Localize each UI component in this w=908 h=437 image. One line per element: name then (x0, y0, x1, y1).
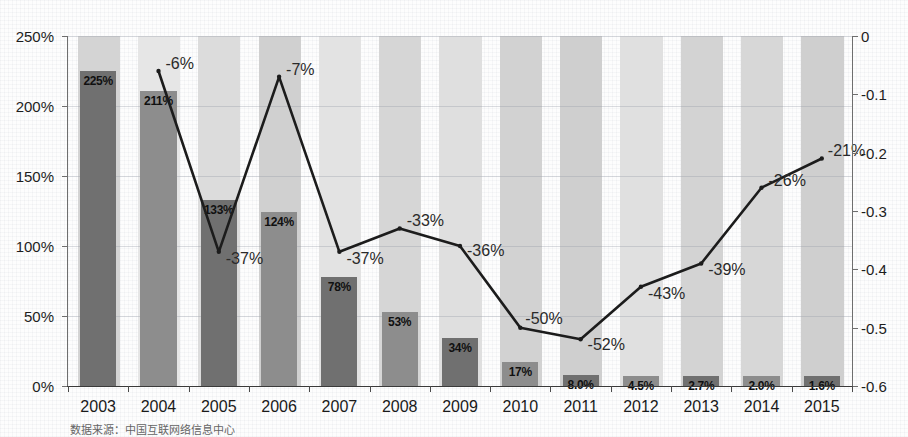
x-axis-tick-label: 2012 (623, 398, 659, 416)
line-data-point[interactable] (639, 285, 643, 289)
x-axis-tick-label: 2008 (382, 398, 418, 416)
y-axis-left-tick (62, 106, 67, 107)
y-axis-left-tick (62, 36, 67, 37)
y-axis-right: 0-0.1-0.2-0.3-0.4-0.5-0.6 (855, 0, 908, 437)
line-series-layer (68, 36, 852, 386)
x-axis-tick-label: 2009 (442, 398, 478, 416)
y-axis-right-tick (852, 36, 858, 37)
source-note: 数据来源：中国互联网络信息中心 (70, 421, 235, 437)
line-data-point[interactable] (759, 186, 763, 190)
y-left-tick-label: 100% (16, 239, 54, 254)
trend-line (159, 71, 822, 339)
line-value-label: -43% (648, 285, 685, 303)
x-axis-tick-label: 2011 (563, 398, 597, 416)
x-axis-tick (309, 386, 310, 392)
line-value-label: -6% (165, 55, 193, 73)
y-axis-right-tick (852, 269, 858, 270)
combo-bar-line-chart: 0%50%100%150%200%250% 0-0.1-0.2-0.3-0.4-… (0, 0, 908, 437)
line-value-label: -52% (588, 336, 625, 354)
line-value-label: -7% (286, 61, 314, 79)
line-value-label: -37% (226, 250, 263, 268)
line-data-point[interactable] (458, 244, 462, 248)
y-right-tick-label: -0.3 (861, 204, 887, 219)
line-data-point[interactable] (820, 156, 824, 160)
line-marker-group (156, 69, 824, 342)
line-value-label: -39% (708, 261, 745, 279)
line-data-point[interactable] (699, 261, 703, 265)
y-right-tick-label: -0.6 (861, 379, 887, 394)
x-axis-baseline (62, 386, 858, 387)
y-right-tick-label: -0.1 (861, 87, 887, 102)
x-axis-tick-label: 2010 (503, 398, 539, 416)
y-left-tick-label: 150% (16, 169, 54, 184)
line-data-point[interactable] (578, 337, 582, 341)
x-axis-tick (550, 386, 551, 392)
line-value-label: -50% (525, 310, 562, 328)
x-axis-tick (68, 386, 69, 392)
x-axis-category-labels: 2003200420052006200720082009201020112012… (68, 398, 852, 420)
x-axis-tick-label: 2015 (804, 398, 840, 416)
y-axis-right-tick (852, 153, 858, 154)
y-left-tick-label: 0% (32, 379, 54, 394)
line-value-label: -21% (828, 142, 865, 160)
y-left-tick-label: 50% (24, 309, 54, 324)
line-data-point[interactable] (217, 250, 221, 254)
line-data-point[interactable] (156, 69, 160, 73)
x-axis-tick (792, 386, 793, 392)
y-axis-left-tick (62, 176, 67, 177)
y-axis-left-tick (62, 386, 67, 387)
x-axis-tick-label: 2007 (322, 398, 358, 416)
line-data-point[interactable] (337, 250, 341, 254)
plot-area: 225%211%133%124%78%53%34%17%8.0%4.5%2.7%… (68, 36, 852, 386)
x-axis-tick-label: 2003 (80, 398, 116, 416)
x-axis-tick (490, 386, 491, 392)
line-value-label: -36% (467, 242, 504, 260)
y-axis-left: 0%50%100%150%200%250% (0, 0, 62, 437)
x-axis-tick (611, 386, 612, 392)
x-axis-tick (430, 386, 431, 392)
y-axis-right-tick (852, 328, 858, 329)
line-value-label: -33% (407, 212, 444, 230)
y-axis-right-tick (852, 211, 858, 212)
line-data-point[interactable] (518, 326, 522, 330)
x-axis-tick (189, 386, 190, 392)
x-axis-tick-label: 2005 (201, 398, 237, 416)
line-data-point[interactable] (398, 226, 402, 230)
x-axis-tick-label: 2013 (683, 398, 719, 416)
y-right-tick-label: -0.4 (861, 262, 887, 277)
line-value-label: -37% (346, 250, 383, 268)
y-axis-right-tick (852, 94, 858, 95)
x-axis-tick (128, 386, 129, 392)
y-axis-left-spine (67, 36, 68, 386)
x-axis-tick (852, 386, 853, 392)
line-value-label: -26% (769, 172, 806, 190)
y-axis-left-tick (62, 316, 67, 317)
x-axis-tick (671, 386, 672, 392)
x-axis-tick-label: 2004 (141, 398, 177, 416)
y-right-tick-label: 0 (861, 29, 869, 44)
x-axis-tick-label: 2014 (744, 398, 780, 416)
x-axis-tick (370, 386, 371, 392)
x-axis-tick (249, 386, 250, 392)
y-left-tick-label: 250% (16, 29, 54, 44)
x-axis-tick-label: 2006 (261, 398, 297, 416)
x-axis-tick (731, 386, 732, 392)
y-left-tick-label: 200% (16, 99, 54, 114)
line-data-point[interactable] (277, 75, 281, 79)
y-axis-left-tick (62, 246, 67, 247)
y-right-tick-label: -0.5 (861, 320, 887, 335)
